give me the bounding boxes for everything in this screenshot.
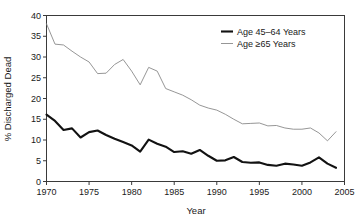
y-tick-label: 10 bbox=[31, 135, 41, 145]
x-tick-label: 1995 bbox=[249, 187, 269, 197]
x-tick-label: 1990 bbox=[207, 187, 227, 197]
x-axis-ticks: 19701975198019851990199520002005 bbox=[36, 182, 354, 197]
x-tick-label: 2005 bbox=[334, 187, 354, 197]
x-tick-label: 1975 bbox=[79, 187, 99, 197]
y-axis-ticks: 0510152025303540 bbox=[31, 11, 47, 187]
y-tick-label: 40 bbox=[31, 11, 41, 21]
legend-label-age-65-plus: Age ≥65 Years bbox=[237, 39, 296, 49]
x-tick-label: 1980 bbox=[122, 187, 142, 197]
x-tick-label: 1985 bbox=[164, 187, 184, 197]
line-chart: 0510152025303540 19701975198019851990199… bbox=[0, 0, 355, 221]
y-tick-label: 20 bbox=[31, 94, 41, 104]
y-axis-title: % Discharged Dead bbox=[2, 57, 13, 142]
y-tick-label: 35 bbox=[31, 31, 41, 41]
y-tick-label: 0 bbox=[36, 177, 41, 187]
x-axis-title: Year bbox=[186, 205, 205, 216]
plot-frame bbox=[47, 16, 345, 182]
chart-container: 0510152025303540 19701975198019851990199… bbox=[0, 0, 355, 221]
series-line-age-45-64 bbox=[47, 115, 336, 168]
chart-legend: Age 45–64 YearsAge ≥65 Years bbox=[221, 27, 306, 49]
x-tick-label: 2000 bbox=[292, 187, 312, 197]
y-tick-label: 15 bbox=[31, 114, 41, 124]
y-tick-label: 25 bbox=[31, 73, 41, 83]
y-tick-label: 5 bbox=[36, 156, 41, 166]
x-tick-label: 1970 bbox=[36, 187, 56, 197]
y-tick-label: 30 bbox=[31, 52, 41, 62]
legend-label-age-45-64: Age 45–64 Years bbox=[237, 27, 306, 37]
